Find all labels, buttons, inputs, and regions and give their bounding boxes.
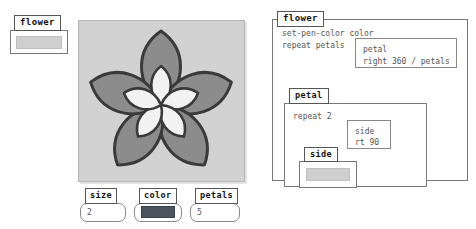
petal-call-line-2: right 360 / petals (363, 56, 449, 68)
widget-color-value-field[interactable] (134, 203, 182, 222)
side-body[interactable] (299, 161, 357, 188)
flower-stub-tab-label[interactable]: flower (14, 15, 61, 31)
petal-definition-block[interactable]: petal repeat 2 side rt 90 side (284, 83, 427, 187)
petal-code-lines: repeat 2 (293, 111, 332, 123)
side-definition-block[interactable]: side (299, 142, 357, 189)
widget-petals-value-field[interactable]: 5 (190, 203, 240, 222)
flower-stub-body[interactable] (10, 30, 68, 54)
side-call-line-1: side (355, 126, 383, 138)
widget-petals-value: 5 (197, 208, 202, 217)
petal-tab-label[interactable]: petal (289, 88, 329, 104)
widget-size-value-field[interactable]: 2 (80, 203, 126, 222)
flower-stub-block[interactable]: flower (10, 10, 68, 54)
petal-call-line-1: petal (363, 44, 449, 56)
widget-size-value: 2 (87, 208, 92, 217)
petal-body[interactable]: repeat 2 side rt 90 side (284, 103, 427, 187)
variable-widget-row: size 2 color petals 5 (80, 188, 240, 222)
drawing-canvas[interactable] (78, 20, 245, 182)
panel-tab-label-flower[interactable]: flower (277, 11, 324, 27)
widget-petals[interactable]: petals 5 (190, 188, 240, 222)
widget-size[interactable]: size 2 (80, 188, 126, 222)
collapsed-body-placeholder (306, 168, 350, 181)
color-swatch[interactable] (141, 206, 175, 218)
widget-color-tab-label[interactable]: color (139, 188, 177, 204)
petal-call-box[interactable]: petal right 360 / petals (355, 38, 457, 68)
side-call-line-2: rt 90 (355, 137, 383, 149)
widget-petals-tab-label[interactable]: petals (195, 188, 238, 204)
side-tab-label[interactable]: side (304, 147, 338, 163)
collapsed-body-placeholder (16, 36, 62, 49)
flower-drawing (79, 21, 244, 181)
widget-color[interactable]: color (134, 188, 182, 222)
code-panel[interactable]: flower set-pen-color color repeat petals… (272, 6, 468, 181)
widget-size-tab-label[interactable]: size (85, 188, 117, 204)
panel-body-flower[interactable]: set-pen-color color repeat petals petal … (272, 19, 468, 181)
